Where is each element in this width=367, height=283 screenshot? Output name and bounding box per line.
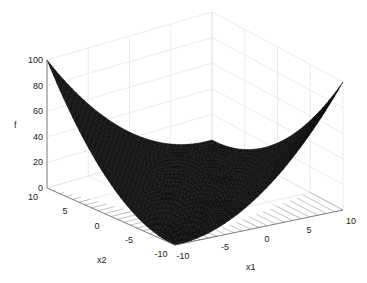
floor-hatch-line	[243, 220, 259, 228]
z-tick-label: 60	[33, 106, 43, 116]
z-tick-label: 100	[28, 55, 43, 65]
z-axis-label: f	[14, 120, 17, 130]
floor-hatch-line	[111, 211, 132, 216]
x2-tick-label: 10	[28, 192, 38, 202]
floor-hatch-line	[270, 209, 293, 221]
floor-hatch-line	[73, 197, 81, 199]
floor-hatch-line	[297, 198, 326, 213]
floor-hatch-line	[98, 207, 115, 211]
x1-axis-label: x1	[246, 262, 256, 272]
x1-tick-label: -5	[221, 242, 229, 252]
floor-hatch-line	[216, 230, 226, 235]
z-tick-label: 40	[33, 132, 43, 142]
floor-hatch-line	[277, 206, 301, 219]
x2-tick-label: 0	[94, 221, 99, 231]
z-tick-label: 80	[33, 81, 43, 91]
floor-hatch-line	[105, 209, 124, 214]
x1-tick-label: -10	[176, 251, 189, 261]
surface-plot: 020406080100-10-50510-10-50510 f x1 x2	[0, 0, 367, 283]
z-tick-label: 0	[38, 183, 43, 193]
floor-hatch-line	[290, 201, 318, 215]
x2-tick-label: 5	[62, 206, 67, 216]
z-tick-label: 20	[33, 157, 43, 167]
floor-hatch-line	[66, 195, 72, 197]
x2-axis-label: x2	[97, 255, 107, 265]
x2-tick-label: -5	[125, 235, 133, 245]
floor-hatch-line	[60, 193, 64, 194]
surface-patch	[47, 60, 54, 73]
floor-hatch-line	[263, 212, 284, 223]
floor-hatch-line	[85, 202, 97, 205]
floor-hatch-line	[92, 204, 107, 208]
x2-tick-label: -10	[154, 249, 167, 259]
floor-hatch-line	[223, 227, 234, 232]
floor-hatch-line	[79, 199, 89, 202]
x1-tick-label: 0	[264, 234, 269, 244]
x1-tick-label: 10	[346, 216, 356, 226]
floor-hatch-line	[229, 225, 242, 231]
floor-hatch-line	[304, 195, 335, 211]
x1-tick-label: 5	[306, 225, 311, 235]
floor-hatch-line	[283, 204, 309, 217]
floor-hatch-line	[236, 222, 251, 229]
floor-hatch-line	[256, 214, 275, 224]
floor-hatch-line	[209, 232, 217, 236]
